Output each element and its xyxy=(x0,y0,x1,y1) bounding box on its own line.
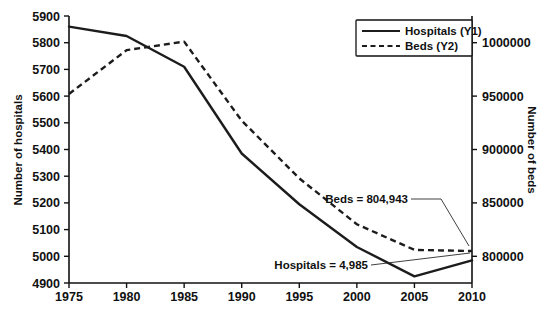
x-tick-label: 2005 xyxy=(401,290,429,304)
series-line-hospitals xyxy=(69,27,472,277)
legend-label-hospitals: Hospitals (Y1) xyxy=(405,25,482,37)
right-axis-ticks: 8000008500009000009500001000000 xyxy=(472,36,531,264)
annotation-leaders xyxy=(371,199,470,265)
right-axis-title: Number of beds xyxy=(526,106,538,194)
left-tick-label: 5800 xyxy=(32,36,60,50)
left-tick-label: 5200 xyxy=(32,196,60,210)
right-tick-label: 800000 xyxy=(482,250,524,264)
left-tick-label: 5400 xyxy=(32,143,60,157)
x-tick-label: 1995 xyxy=(285,290,313,304)
left-tick-label: 5000 xyxy=(32,250,60,264)
left-axis-title: Number of hospitals xyxy=(12,94,24,205)
left-tick-label: 5700 xyxy=(32,63,60,77)
legend-label-beds: Beds (Y2) xyxy=(405,40,458,52)
left-tick-label: 4900 xyxy=(32,277,60,291)
right-tick-label: 950000 xyxy=(482,90,524,104)
x-tick-label: 1975 xyxy=(55,290,83,304)
x-tick-label: 1990 xyxy=(228,290,256,304)
annotation-hospitals: Hospitals = 4,985 xyxy=(274,259,368,271)
annotation-beds: Beds = 804,943 xyxy=(325,193,408,205)
legend: Hospitals (Y1) Beds (Y2) xyxy=(356,20,482,56)
left-axis-ticks: 4900500051005200530054005500560057005800… xyxy=(32,10,69,291)
dual-axis-line-chart: 4900500051005200530054005500560057005800… xyxy=(0,0,539,316)
x-tick-label: 2000 xyxy=(343,290,371,304)
x-tick-label: 2010 xyxy=(458,290,486,304)
left-tick-label: 5500 xyxy=(32,116,60,130)
left-tick-label: 5100 xyxy=(32,223,60,237)
left-tick-label: 5900 xyxy=(32,10,60,24)
right-tick-label: 1000000 xyxy=(482,36,531,50)
left-tick-label: 5600 xyxy=(32,90,60,104)
series-group xyxy=(69,27,472,277)
chart-container: 4900500051005200530054005500560057005800… xyxy=(0,0,539,316)
right-tick-label: 900000 xyxy=(482,143,524,157)
hospitals-leader-line xyxy=(371,253,470,265)
left-tick-label: 5300 xyxy=(32,170,60,184)
x-tick-label: 1985 xyxy=(170,290,198,304)
beds-leader-line xyxy=(411,199,469,246)
right-tick-label: 850000 xyxy=(482,196,524,210)
series-line-beds xyxy=(69,42,472,251)
x-tick-label: 1980 xyxy=(113,290,141,304)
x-axis-ticks: 19751980198519901995200020052010 xyxy=(55,283,486,304)
